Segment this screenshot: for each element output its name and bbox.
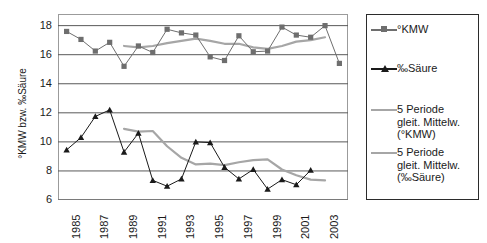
y-axis-tick-labels: 681012141618	[26, 14, 52, 200]
x-axis-tick-label: 2001	[300, 215, 311, 239]
legend-key-line-square-marker-icon	[371, 24, 397, 36]
legend-item-label: 5 Periode gleit. Mittelw. (°KMW)	[397, 103, 460, 141]
y-axis-tick-label: 16	[28, 49, 52, 60]
x-axis-tick-label: 1989	[128, 215, 139, 239]
legend-item[interactable]: ‰Säure	[371, 62, 437, 75]
legend-key-line-plain-icon	[371, 147, 397, 159]
y-axis-tick-label: 10	[28, 136, 52, 147]
x-axis-tick-label: 1997	[243, 215, 254, 239]
plot-area	[58, 14, 348, 200]
legend-key-line-triangle-marker-icon	[371, 63, 397, 75]
chart-container: °KMW bzw. ‰Säure 681012141618 1985198719…	[0, 0, 487, 243]
y-axis-tick-label: 6	[28, 194, 52, 205]
y-axis-tick-label: 14	[28, 78, 52, 89]
x-axis-tick-label: 1995	[214, 215, 225, 239]
x-axis-tick-label: 1991	[157, 215, 168, 239]
y-axis-tick-label: 18	[28, 20, 52, 31]
y-axis-tick-label: 8	[28, 165, 52, 176]
y-axis-tick-label: 12	[28, 107, 52, 118]
x-axis-tick-label: 2003	[329, 215, 340, 239]
x-axis-tick-labels: 1985198719891991199319951997199920012003	[58, 203, 348, 243]
x-axis-tick-label: 1985	[71, 215, 82, 239]
chart-legend: °KMW‰Säure5 Periode gleit. Mittelw. (°KM…	[366, 14, 479, 200]
legend-key-line-plain-icon	[371, 104, 397, 116]
x-axis-tick-label: 1999	[272, 215, 283, 239]
x-axis-tick-label: 1987	[99, 215, 110, 239]
x-axis-tick-label: 1993	[185, 215, 196, 239]
legend-item[interactable]: 5 Periode gleit. Mittelw. (‰Säure)	[371, 146, 460, 184]
legend-item[interactable]: °KMW	[371, 23, 428, 36]
plot-svg	[58, 14, 348, 200]
legend-item[interactable]: 5 Periode gleit. Mittelw. (°KMW)	[371, 103, 460, 141]
legend-item-label: ‰Säure	[397, 62, 437, 75]
legend-item-label: 5 Periode gleit. Mittelw. (‰Säure)	[397, 146, 460, 184]
legend-item-label: °KMW	[397, 23, 428, 36]
